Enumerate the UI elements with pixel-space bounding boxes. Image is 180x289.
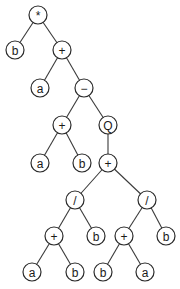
tree-node: b bbox=[6, 41, 24, 59]
node-label: b bbox=[72, 266, 79, 280]
tree-node: + bbox=[115, 227, 133, 245]
tree-node: a bbox=[31, 154, 49, 172]
tree-node: * bbox=[29, 6, 47, 24]
tree-node: b bbox=[73, 154, 91, 172]
node-label: − bbox=[80, 82, 87, 96]
node-label: b bbox=[163, 230, 170, 244]
tree-node: a bbox=[136, 263, 154, 281]
tree-node: + bbox=[45, 227, 63, 245]
tree-node: + bbox=[53, 41, 71, 59]
node-label: + bbox=[120, 230, 127, 244]
tree-node: / bbox=[66, 191, 84, 209]
node-label: a bbox=[37, 82, 44, 96]
node-label: a bbox=[142, 266, 149, 280]
node-label: + bbox=[104, 157, 111, 171]
tree-node: b bbox=[157, 227, 175, 245]
node-label: + bbox=[50, 230, 57, 244]
tree-node: a bbox=[31, 79, 49, 97]
expression-tree: *b+a−+Qab+//+b+babba bbox=[0, 0, 180, 289]
tree-node: Q bbox=[99, 116, 117, 134]
tree-node: − bbox=[75, 79, 93, 97]
node-label: b bbox=[100, 266, 107, 280]
tree-node: b bbox=[66, 263, 84, 281]
tree-node: b bbox=[94, 263, 112, 281]
tree-nodes: *b+a−+Qab+//+b+babba bbox=[6, 6, 175, 281]
node-label: b bbox=[79, 157, 86, 171]
node-label: b bbox=[93, 230, 100, 244]
node-label: Q bbox=[103, 119, 112, 133]
tree-node: + bbox=[99, 154, 117, 172]
tree-node: b bbox=[87, 227, 105, 245]
node-label: + bbox=[58, 44, 65, 58]
node-label: a bbox=[37, 157, 44, 171]
tree-node: / bbox=[138, 191, 156, 209]
node-label: * bbox=[36, 9, 41, 23]
tree-node: a bbox=[23, 263, 41, 281]
node-label: b bbox=[12, 44, 19, 58]
node-label: + bbox=[58, 119, 65, 133]
node-label: a bbox=[29, 266, 36, 280]
tree-node: + bbox=[53, 116, 71, 134]
